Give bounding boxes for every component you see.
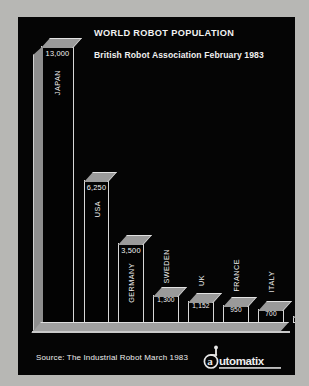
bar-label-sweden: SWEDEN bbox=[162, 249, 171, 284]
bar-value-usa: 6,250 bbox=[85, 183, 108, 192]
bar-germany: 3,500 GERMANY bbox=[118, 243, 144, 323]
bar-value-france: 950 bbox=[224, 306, 248, 313]
bar-value-sweden: 1,300 bbox=[154, 296, 178, 303]
chart-baseline bbox=[32, 331, 290, 333]
bar-top-face-japan bbox=[41, 38, 82, 48]
source-note: Source: The Industrial Robot March 1983 bbox=[36, 353, 188, 362]
bar-chart-plot: 13,000 JAPAN 6,250 USA 3,500 GERMANY 1,3… bbox=[18, 17, 295, 347]
bar-top-face-germany bbox=[118, 235, 152, 245]
bar-japan: 13,000 JAPAN bbox=[41, 46, 74, 323]
robot-head-dot bbox=[214, 346, 218, 350]
robot-column bbox=[215, 349, 217, 355]
logo-letter-a: a bbox=[207, 355, 213, 367]
bar-belgium: 350 BELGIUM bbox=[293, 316, 295, 323]
bar-label-italy: ITALY bbox=[267, 271, 276, 292]
bar-label-germany: GERMANY bbox=[127, 263, 136, 303]
bar-usa: 6,250 USA bbox=[84, 180, 109, 323]
bar-label-japan: JAPAN bbox=[53, 70, 62, 95]
bar-value-uk: 1,152 bbox=[189, 302, 213, 309]
bar-value-italy: 700 bbox=[259, 310, 283, 317]
bar-uk: 1,152 UK bbox=[188, 301, 214, 323]
automatix-logo: a utomatix bbox=[200, 344, 286, 370]
bar-label-france: FRANCE bbox=[232, 259, 241, 292]
bar-value-germany: 3,500 bbox=[119, 246, 143, 255]
logo-underline bbox=[219, 367, 281, 369]
bar-italy: 700 ITALY bbox=[258, 309, 284, 323]
automatix-logo-mark: a utomatix bbox=[200, 344, 286, 370]
bar-side-face-japan bbox=[33, 46, 43, 331]
logo-wordmark: utomatix bbox=[219, 355, 265, 367]
bar-value-japan: 13,000 bbox=[42, 49, 73, 58]
bar-sweden: 1,300 SWEDEN bbox=[153, 295, 179, 323]
bar-top-face-usa bbox=[84, 172, 117, 182]
poster-chart-image: WORLD ROBOT POPULATION British Robot Ass… bbox=[0, 0, 309, 386]
bar-france: 950 FRANCE bbox=[223, 305, 249, 323]
bar-value-belgium: 350 bbox=[294, 315, 295, 322]
chart-panel: WORLD ROBOT POPULATION British Robot Ass… bbox=[18, 17, 295, 375]
bar-label-uk: UK bbox=[197, 275, 206, 286]
bar-label-usa: USA bbox=[93, 201, 102, 217]
